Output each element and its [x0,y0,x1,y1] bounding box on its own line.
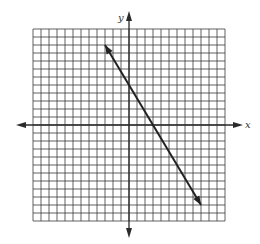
x-axis-left-arrow-icon [16,122,26,128]
y-axis-label: y [117,12,124,23]
x-axis-right-arrow-icon [233,122,243,128]
y-axis-bottom-arrow-icon [126,228,132,238]
coordinate-plane: x y [0,0,260,244]
x-axis-label: x [245,119,251,130]
y-axis-top-arrow-icon [126,11,132,21]
